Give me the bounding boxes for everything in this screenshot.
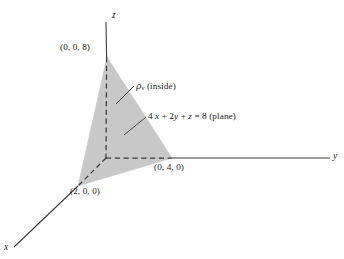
z-axis-solid xyxy=(106,22,107,57)
region-density-label: ρv (inside) xyxy=(136,81,176,92)
plane-plus-1: + xyxy=(159,111,169,121)
diagram-svg xyxy=(0,0,344,259)
point-label-z-intercept: (0, 0, 8) xyxy=(60,43,90,52)
point-label-x-intercept: (2, 0, 0) xyxy=(70,187,100,196)
plane-plus-2: + xyxy=(178,111,188,121)
plane-kind: (plane) xyxy=(207,111,236,121)
x-axis-label: x xyxy=(4,243,8,252)
y-axis-label: y xyxy=(333,152,337,161)
point-label-y-intercept: (0, 4, 0) xyxy=(154,163,184,172)
plane-equation-label: 4 x + 2y + z = 8 (plane) xyxy=(148,112,236,121)
region-inside-text: (inside) xyxy=(145,81,176,91)
x-axis-solid xyxy=(14,186,78,247)
z-axis-label: z xyxy=(112,11,116,20)
plane-equals: = xyxy=(192,111,202,121)
figure-canvas: z y x (0, 0, 8) (2, 0, 0) (0, 4, 0) ρv (… xyxy=(0,0,344,259)
